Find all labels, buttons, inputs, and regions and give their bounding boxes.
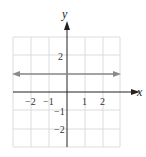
x-axis-label: x xyxy=(136,85,143,99)
svg-text:2: 2 xyxy=(100,96,105,107)
svg-text:2: 2 xyxy=(58,51,63,62)
y-axis-arrow-icon xyxy=(64,21,70,30)
svg-text:−2: −2 xyxy=(54,124,65,135)
x-tick-labels: −2 −1 1 2 xyxy=(25,96,105,107)
y-tick-labels: 2 −1 −2 xyxy=(54,51,65,135)
coordinate-plane: x y −2 −1 1 2 2 −1 −2 xyxy=(0,0,146,157)
svg-text:1: 1 xyxy=(82,96,87,107)
y-axis-label: y xyxy=(61,7,68,21)
svg-text:−2: −2 xyxy=(25,96,36,107)
svg-text:−1: −1 xyxy=(54,106,65,117)
svg-text:−1: −1 xyxy=(43,96,54,107)
